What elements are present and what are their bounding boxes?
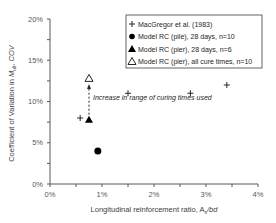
x-tick-label: 4% xyxy=(253,190,264,199)
x-tick-label: 0% xyxy=(45,190,56,199)
arrowhead-icon xyxy=(87,84,91,89)
plot-area: Increase in range of curing times used xyxy=(77,74,230,154)
legend-label: Model RC (pier), 28 days, n=6 xyxy=(138,46,232,54)
legend-item: Model RC (pier), all cure times, n=10 xyxy=(128,58,252,67)
data-point-filled-circle xyxy=(94,148,101,155)
y-tick-label: 0% xyxy=(32,180,43,189)
filled-circle-icon xyxy=(129,34,135,40)
y-tick-label: 10% xyxy=(28,97,43,106)
legend-item: MacGregor et al. (1983) xyxy=(129,21,212,29)
chart: 0%1%2%3%4%0%5%10%15%20%Longitudinal rein… xyxy=(0,0,276,223)
x-tick-label: 2% xyxy=(149,190,160,199)
data-point-open-triangle xyxy=(85,74,93,81)
data-point-plus xyxy=(77,115,83,121)
y-tick-label: 20% xyxy=(28,15,43,24)
data-point-plus xyxy=(224,82,230,88)
legend-item: Model RC (pier), 28 days, n=6 xyxy=(128,45,232,54)
data-point-filled-triangle xyxy=(85,116,93,123)
legend-item: Model RC (pile), 28 days, n=10 xyxy=(129,33,235,41)
x-axis-title: Longitudinal reinforcement ratio, As/bd xyxy=(91,205,219,215)
legend-label: Model RC (pile), 28 days, n=10 xyxy=(138,33,235,41)
legend-label: Model RC (pier), all cure times, n=10 xyxy=(138,58,252,66)
legend: MacGregor et al. (1983)Model RC (pile), … xyxy=(126,15,262,68)
y-tick-label: 15% xyxy=(28,56,43,65)
y-tick-label: 5% xyxy=(32,138,43,147)
x-tick-label: 3% xyxy=(201,190,212,199)
legend-label: MacGregor et al. (1983) xyxy=(138,21,212,29)
annotation-text: Increase in range of curing times used xyxy=(93,94,213,102)
x-tick-label: 1% xyxy=(97,190,108,199)
y-axis-title: Coefficient of Variation in Mult, COV xyxy=(7,44,17,162)
